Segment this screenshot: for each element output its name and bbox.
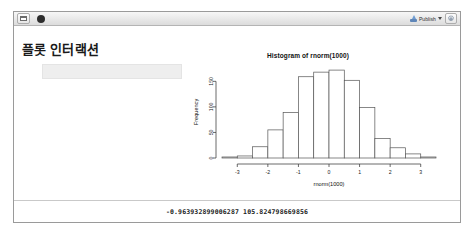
- x-tick-label: 3: [419, 169, 422, 175]
- publish-label: Publish: [419, 16, 436, 22]
- histogram-bar[interactable]: [283, 113, 298, 158]
- histogram-bar[interactable]: [268, 130, 283, 158]
- app-toolbar: Publish: [14, 12, 460, 26]
- app-content: 플롯 인터랙션 Histogram of rnorm(1000) 0501001…: [14, 26, 460, 222]
- click-coordinates-output: -0.963932899006287 105.824798669856: [14, 200, 460, 222]
- settings-button[interactable]: [445, 13, 457, 24]
- y-tick-label: 50: [208, 129, 214, 135]
- chevron-down-icon[interactable]: [438, 17, 442, 20]
- histogram-bar[interactable]: [329, 70, 344, 158]
- x-axis-label: rnorm(1000): [314, 181, 345, 187]
- open-in-window-button[interactable]: [17, 13, 30, 24]
- histogram-bar[interactable]: [360, 107, 375, 158]
- histogram-bar[interactable]: [344, 80, 359, 158]
- histogram-bar[interactable]: [375, 139, 390, 158]
- toolbar-left-group: [14, 13, 45, 24]
- gear-icon: [447, 15, 455, 23]
- busy-stop-icon[interactable]: [37, 15, 45, 23]
- histogram-plot-panel[interactable]: Histogram of rnorm(1000) 050100150-3-2-1…: [174, 52, 442, 192]
- histogram-bar[interactable]: [314, 72, 329, 158]
- histogram-bar[interactable]: [237, 156, 252, 158]
- histogram-bar[interactable]: [298, 77, 313, 158]
- x-tick-label: 1: [358, 169, 361, 175]
- histogram-bar[interactable]: [253, 147, 268, 158]
- x-tick-label: -1: [296, 169, 301, 175]
- y-axis-label: Frequency: [193, 99, 199, 126]
- histogram-bar[interactable]: [421, 157, 436, 158]
- histogram-bar[interactable]: [405, 154, 420, 158]
- y-tick-label: 150: [208, 77, 214, 86]
- window-pane-icon: [20, 16, 27, 21]
- page-title: 플롯 인터랙션: [22, 39, 99, 58]
- screenshot-root: Publish 플롯 인터랙션 Histogram of rnorm(1000): [0, 0, 474, 245]
- histogram-bar[interactable]: [390, 148, 405, 158]
- y-tick-label: 100: [208, 102, 214, 111]
- x-tick-label: 2: [389, 169, 392, 175]
- publish-upload-icon: [410, 15, 417, 22]
- histogram-bar[interactable]: [222, 157, 237, 158]
- histogram-svg[interactable]: 050100150-3-2-10123rnorm(1000)Frequency: [174, 52, 442, 192]
- publish-button[interactable]: Publish: [410, 15, 442, 22]
- toolbar-right-group: Publish: [410, 12, 457, 25]
- x-tick-label: 0: [328, 169, 331, 175]
- x-tick-label: -2: [266, 169, 271, 175]
- coordinates-text: -0.963932899006287 105.824798669856: [166, 208, 308, 216]
- plot-select-input[interactable]: [42, 64, 182, 79]
- shiny-app-window: Publish 플롯 인터랙션 Histogram of rnorm(1000): [13, 11, 461, 223]
- x-tick-label: -3: [235, 169, 240, 175]
- y-tick-label: 0: [208, 156, 214, 159]
